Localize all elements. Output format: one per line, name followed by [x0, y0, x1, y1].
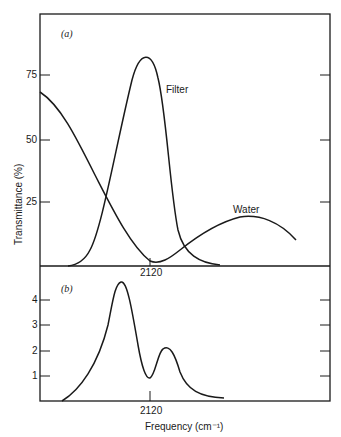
- ytick-75: 75: [26, 70, 37, 80]
- ytick-1: 1: [32, 371, 38, 381]
- ytick-25: 25: [26, 197, 37, 207]
- chart-canvas: [0, 0, 341, 437]
- y-axis-label: Transmittance (%): [13, 164, 24, 245]
- filter-curve: [68, 57, 220, 266]
- x-marker-a: 2120: [140, 268, 162, 278]
- water-curve: [40, 92, 296, 262]
- ytick-3: 3: [32, 320, 38, 330]
- ytick-50: 50: [26, 135, 37, 145]
- product-curve: [62, 282, 224, 401]
- panel-label-b: (b): [61, 283, 73, 294]
- panel-label-a: (a): [61, 28, 73, 39]
- x-marker-b: 2120: [140, 406, 162, 416]
- x-axis-label: Frequency (cm⁻¹): [145, 422, 223, 432]
- y-ticks-a: [40, 75, 330, 266]
- plot-frame: [40, 14, 330, 401]
- ytick-4: 4: [32, 295, 38, 305]
- water-label: Water: [233, 205, 259, 215]
- y-ticks-b: [40, 300, 330, 401]
- filter-label: Filter: [166, 85, 188, 95]
- ytick-2: 2: [32, 346, 38, 356]
